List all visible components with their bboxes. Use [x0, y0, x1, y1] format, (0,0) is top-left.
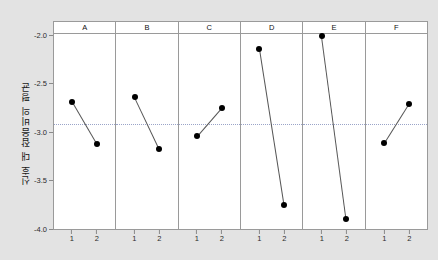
x-axis-tick-label: 1: [195, 235, 199, 243]
x-axis-tick-label: 2: [220, 235, 224, 243]
series-line: [135, 97, 160, 149]
series-plot: [241, 34, 302, 229]
x-axis-tick: 2: [282, 230, 286, 243]
x-axis-tick: 1: [132, 230, 136, 243]
x-axis-panel: 12: [366, 230, 429, 250]
panel-c: C: [179, 22, 241, 229]
panel-plot-area: [366, 34, 427, 229]
x-axis-panel: 12: [303, 230, 366, 250]
y-axis-tick-label: -3.5: [34, 176, 47, 185]
y-axis: -2.0-2.5-3.0-3.5-4.0: [8, 8, 53, 260]
x-axis-tick: 2: [220, 230, 224, 243]
x-axis-tick-label: 1: [70, 235, 74, 243]
panel-e: E: [303, 22, 365, 229]
series-plot: [179, 34, 240, 229]
x-axis-tick: 1: [382, 230, 386, 243]
series-line: [72, 102, 97, 144]
x-axis-tick: 2: [95, 230, 99, 243]
panel-b: B: [116, 22, 178, 229]
x-axis-tick: 1: [195, 230, 199, 243]
series-line: [197, 108, 222, 136]
series-plot: [366, 34, 427, 229]
panel-strip-header: D: [241, 22, 302, 34]
x-axis-tick: 1: [257, 230, 261, 243]
series-plot: [116, 34, 177, 229]
series-plot: [303, 34, 364, 229]
x-axis-tick-label: 2: [282, 235, 286, 243]
panel-strip-label: B: [144, 24, 149, 32]
series-line: [384, 104, 409, 143]
x-axis-tick: 2: [345, 230, 349, 243]
panel-a: A: [54, 22, 116, 229]
x-axis-tick-label: 1: [257, 235, 261, 243]
panel-d: D: [241, 22, 303, 229]
panel-f: F: [366, 22, 427, 229]
x-axis-tick-label: 2: [407, 235, 411, 243]
x-axis-tick: 1: [70, 230, 74, 243]
series-plot: [54, 34, 115, 229]
x-axis-tick: 1: [320, 230, 324, 243]
x-axis-tick-label: 1: [320, 235, 324, 243]
panel-strip-header: C: [179, 22, 240, 34]
series-line: [259, 49, 284, 205]
y-axis-tick-label: -3.0: [34, 127, 47, 136]
x-axis-tick-label: 2: [95, 235, 99, 243]
panel-plot-area: [179, 34, 240, 229]
x-axis-tick-label: 1: [132, 235, 136, 243]
main-effects-plot-figure: 신호 대 잡음비의 평균 -2.0-2.5-3.0-3.5-4.0 ABCDEF…: [0, 0, 438, 260]
x-axis: 121212121212: [53, 230, 428, 250]
x-axis-tick-label: 1: [382, 235, 386, 243]
x-axis-panel: 12: [178, 230, 241, 250]
y-axis-tick-label: -2.5: [34, 79, 47, 88]
panel-plot-area: [54, 34, 115, 229]
panel-strip-header: F: [366, 22, 427, 34]
x-axis-panel: 12: [241, 230, 304, 250]
x-axis-tick: 2: [157, 230, 161, 243]
panel-strip-header: A: [54, 22, 115, 34]
panel-strip-header: B: [116, 22, 177, 34]
x-axis-tick: 2: [407, 230, 411, 243]
panel-strip-header: E: [303, 22, 364, 34]
x-axis-tick-label: 2: [345, 235, 349, 243]
x-axis-panel: 12: [116, 230, 179, 250]
panel-strip-label: E: [331, 24, 336, 32]
x-axis-tick-label: 2: [157, 235, 161, 243]
panel-plot-area: [116, 34, 177, 229]
data-point: [219, 105, 225, 111]
panel-plot-area: [303, 34, 364, 229]
plot-canvas: 신호 대 잡음비의 평균 -2.0-2.5-3.0-3.5-4.0 ABCDEF…: [8, 8, 430, 252]
y-axis-tick-label: -2.0: [34, 30, 47, 39]
data-point: [406, 101, 412, 107]
panel-strip-label: F: [394, 24, 399, 32]
data-point: [319, 33, 325, 39]
panel-strip-label: D: [269, 24, 274, 32]
panel-strip-label: C: [207, 24, 212, 32]
panel-strip-label: A: [82, 24, 87, 32]
panel-plot-area: [241, 34, 302, 229]
x-axis-panel: 12: [53, 230, 116, 250]
y-axis-tick-label: -4.0: [34, 224, 47, 233]
series-line: [322, 36, 347, 219]
panel-grid: ABCDEF: [53, 21, 428, 230]
data-point: [281, 202, 287, 208]
